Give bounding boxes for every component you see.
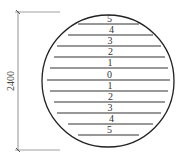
division-label: 2	[108, 91, 113, 102]
division-label: 4	[109, 24, 114, 35]
dimension-annotation: 2400	[5, 10, 60, 152]
division-label: 1	[108, 80, 113, 91]
division-label: 3	[108, 35, 113, 46]
division-label: 4	[109, 113, 114, 124]
division-label: 2	[108, 46, 113, 57]
division-label: 0	[107, 69, 112, 80]
division-label: 5	[107, 13, 112, 24]
division-label: 1	[108, 57, 113, 68]
division-label: 3	[108, 102, 113, 113]
circular-section-diagram: 2400 54321012345	[0, 0, 186, 165]
division-label: 5	[107, 124, 112, 135]
dimension-label: 2400	[5, 71, 16, 91]
